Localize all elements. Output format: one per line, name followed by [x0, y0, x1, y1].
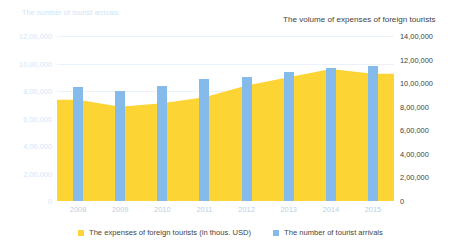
right-axis-tick: 8,00,000	[400, 102, 429, 111]
x-axis-tick: 2008	[70, 205, 86, 214]
legend-item[interactable]: The number of tourist arrivals	[273, 228, 383, 237]
legend-item-label: The expenses of foreign tourists (in tho…	[89, 228, 251, 237]
chart-plot-area	[57, 36, 394, 201]
bar	[115, 91, 125, 201]
right-axis-tick: 14,00,000	[400, 32, 433, 41]
x-axis-tick: 2010	[154, 205, 170, 214]
left-axis-tick: 8,00,000	[23, 87, 52, 96]
right-axis-title: The volume of expenses of foreign touris…	[283, 15, 436, 24]
left-axis-tick: 4,00,000	[23, 142, 52, 151]
right-axis-tick: 4,00,000	[400, 149, 429, 158]
x-axis-tick: 2014	[323, 205, 339, 214]
x-axis-tick: 2015	[365, 205, 381, 214]
x-axis-tick: 2009	[112, 205, 128, 214]
bar	[368, 66, 378, 201]
bar	[199, 79, 209, 201]
chart-legend: The expenses of foreign tourists (in tho…	[78, 228, 383, 237]
x-axis-tick: 2012	[238, 205, 254, 214]
left-axis-tick: 10,00,000	[19, 59, 52, 68]
right-axis-tick: 12,00,000	[400, 55, 433, 64]
right-axis-tick-labels: 02,00,0004,00,0006,00,0008,00,00010,00,0…	[400, 36, 452, 201]
right-axis-tick: 10,00,000	[400, 79, 433, 88]
left-axis-tick-labels: 02,00,0004,00,0006,00,0008,00,00010,00,0…	[0, 36, 52, 201]
left-axis-tick: 2,00,000	[23, 169, 52, 178]
left-axis-title: The number of tourist arrivals	[22, 8, 118, 17]
x-axis-tick-labels: 20082009201020112012201320142015	[57, 205, 394, 217]
bar	[242, 77, 252, 201]
left-axis-tick: 12,00,000	[19, 32, 52, 41]
right-axis-tick: 0	[400, 197, 404, 206]
x-axis-tick: 2013	[280, 205, 296, 214]
bar	[326, 68, 336, 201]
arrivals-bar-series	[57, 36, 394, 201]
right-axis-tick: 6,00,000	[400, 126, 429, 135]
left-axis-tick: 0	[48, 197, 52, 206]
legend-item[interactable]: The expenses of foreign tourists (in tho…	[78, 228, 251, 237]
x-axis-tick: 2011	[196, 205, 212, 214]
square-swatch-icon	[78, 230, 84, 236]
bar	[284, 72, 294, 201]
bar	[157, 86, 167, 201]
right-axis-tick: 2,00,000	[400, 173, 429, 182]
legend-item-label: The number of tourist arrivals	[284, 228, 383, 237]
left-axis-tick: 6,00,000	[23, 114, 52, 123]
square-swatch-icon	[273, 230, 279, 236]
bar	[73, 87, 83, 201]
